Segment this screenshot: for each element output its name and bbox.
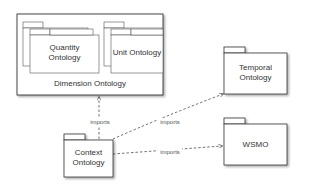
context-ontology-label-line2: Ontology (64, 158, 113, 168)
unit-ontology-label: Unit Ontology (111, 48, 163, 58)
temporal-ontology-label-line1: Temporal (224, 63, 287, 73)
diagram-canvas (0, 0, 312, 190)
wsmo-label: WSMO (224, 140, 287, 150)
quantity-ontology-label-line2: Ontology (30, 53, 99, 63)
quantity-ontology-label-line1: Quantity (30, 43, 99, 53)
imports-label-temporal: imports (158, 118, 182, 126)
imports-label-dimension: imports (88, 118, 112, 126)
temporal-ontology-label-line2: Ontology (224, 73, 287, 83)
dimension-ontology-label: Dimension Ontology (17, 79, 163, 89)
context-ontology-label-line1: Context (64, 148, 113, 158)
imports-label-wsmo: imports (158, 148, 182, 156)
imports-arrow-temporal (113, 94, 223, 139)
